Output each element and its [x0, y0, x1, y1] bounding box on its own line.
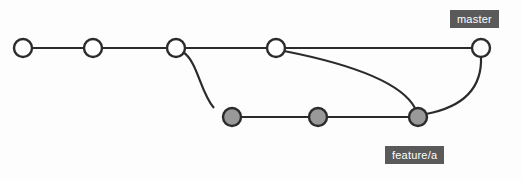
commit-node-feature-a-3[interactable]: [409, 108, 427, 126]
git-graph-diagram: master feature/a: [0, 0, 522, 180]
commit-node-master-5[interactable]: [472, 39, 490, 57]
commit-node-master-4[interactable]: [267, 39, 285, 57]
commit-node-feature-a-2[interactable]: [309, 108, 327, 126]
edge-branch-off-m3-f1: [183, 52, 214, 108]
commit-node-master-2[interactable]: [84, 39, 102, 57]
edge-merge-back-f3-m5: [426, 57, 481, 114]
branch-label-master[interactable]: master: [450, 10, 499, 28]
commit-node-master-1[interactable]: [14, 39, 32, 57]
commit-node-master-3[interactable]: [167, 39, 185, 57]
branch-label-feature-a[interactable]: feature/a: [385, 146, 444, 164]
commit-node-feature-a-1[interactable]: [223, 108, 241, 126]
edge-merge-m4-f3: [284, 51, 415, 108]
